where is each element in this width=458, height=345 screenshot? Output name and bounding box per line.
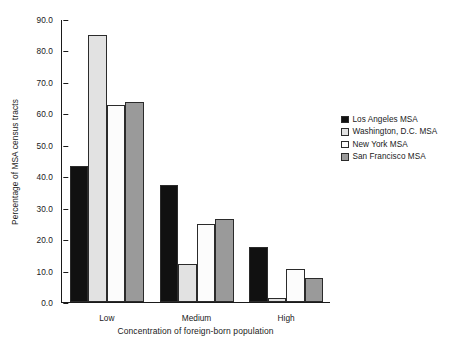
bar: [70, 166, 89, 302]
legend-item: San Francisco MSA: [341, 151, 455, 164]
legend-item: Washington, D.C. MSA: [341, 126, 455, 139]
y-axis-title-text: Percentage of MSA census tracts: [10, 99, 20, 225]
legend-label: Los Angeles MSA: [353, 115, 418, 124]
y-axis-tick-label: 60.0: [36, 109, 53, 119]
bar: [249, 247, 268, 302]
y-axis-tick-label: 70.0: [36, 78, 53, 88]
legend-swatch-icon: [341, 141, 349, 149]
legend-swatch-icon: [341, 128, 349, 136]
legend-item: New York MSA: [341, 138, 455, 151]
bar: [125, 102, 144, 302]
y-axis-tick-label: 40.0: [36, 172, 53, 182]
plot-area: 0.010.020.030.040.050.060.070.080.090.0L…: [61, 20, 330, 303]
legend-swatch-icon: [341, 116, 349, 124]
bar-chart: Percentage of MSA census tracts 0.010.02…: [0, 0, 458, 345]
y-axis-tick-label: 90.0: [36, 15, 53, 25]
bar: [268, 298, 287, 302]
legend-swatch-icon: [341, 153, 349, 161]
bar: [305, 278, 324, 302]
y-axis-tick-label: 10.0: [36, 267, 53, 277]
y-axis-tick: [63, 240, 68, 241]
legend-label: New York MSA: [353, 140, 408, 149]
bar: [88, 35, 107, 302]
y-axis-tick: [63, 20, 68, 21]
bar: [178, 264, 197, 302]
y-axis-tick-label: 20.0: [36, 235, 53, 245]
y-axis-tick-label: 80.0: [36, 46, 53, 56]
legend-item: Los Angeles MSA: [341, 113, 455, 126]
y-axis-tick: [63, 272, 68, 273]
legend-label: Washington, D.C. MSA: [353, 127, 438, 136]
bar: [107, 105, 126, 302]
bars-layer: [62, 20, 330, 302]
bar: [215, 219, 234, 302]
legend: Los Angeles MSAWashington, D.C. MSANew Y…: [341, 113, 455, 163]
y-axis-tick: [63, 209, 68, 210]
y-axis-tick-label: 30.0: [36, 204, 53, 214]
x-axis-group-label: Low: [99, 313, 114, 323]
bar: [160, 185, 179, 302]
legend-label: San Francisco MSA: [353, 152, 426, 161]
y-axis-tick: [63, 146, 68, 147]
bar: [286, 269, 305, 302]
y-axis-tick: [63, 114, 68, 115]
y-axis-tick-label: 50.0: [36, 141, 53, 151]
x-axis-title: Concentration of foreign-born population: [61, 326, 330, 336]
y-axis-tick: [63, 303, 68, 304]
x-axis-group-label: High: [278, 313, 295, 323]
x-axis-group-label: Medium: [182, 313, 212, 323]
y-axis-tick-label: 0.0: [41, 298, 53, 308]
y-axis-title: Percentage of MSA census tracts: [9, 20, 21, 303]
y-axis-tick: [63, 177, 68, 178]
bar: [197, 224, 216, 302]
y-axis-tick: [63, 83, 68, 84]
y-axis-tick: [63, 51, 68, 52]
